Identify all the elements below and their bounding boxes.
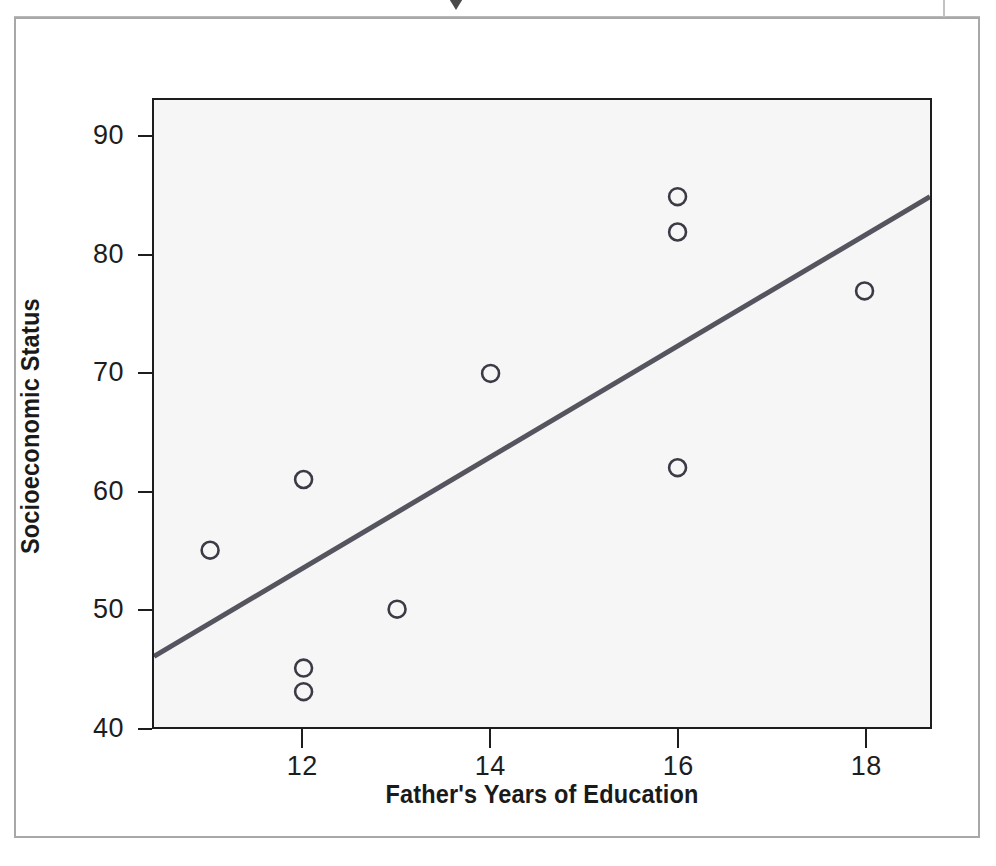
data-point (669, 224, 686, 241)
y-tick-mark (138, 491, 152, 493)
x-tick-mark (301, 729, 303, 748)
y-tick-label: 60 (32, 478, 124, 505)
y-tick-label: 70 (32, 359, 124, 386)
x-tick-label: 16 (628, 753, 728, 780)
y-tick-mark (138, 135, 152, 137)
x-tick-mark (865, 729, 867, 748)
data-point (295, 660, 312, 677)
scatter-chart: 405060708090 12141618 Socioeconomic Stat… (0, 0, 996, 866)
x-axis-title: Father's Years of Education (175, 780, 908, 809)
data-point (482, 365, 499, 382)
y-tick-mark (138, 372, 152, 374)
x-tick-mark (489, 729, 491, 748)
data-point (669, 188, 686, 205)
data-point (295, 683, 312, 700)
figure-page: 405060708090 12141618 Socioeconomic Stat… (0, 0, 996, 866)
y-tick-mark (138, 609, 152, 611)
data-point (389, 601, 406, 618)
y-axis-title: Socioeconomic Status (16, 219, 45, 633)
data-point (856, 282, 873, 299)
y-tick-mark (138, 728, 152, 730)
x-tick-label: 14 (440, 753, 540, 780)
y-tick-label: 80 (32, 241, 124, 268)
y-tick-label: 40 (32, 715, 124, 742)
x-tick-label: 18 (816, 753, 916, 780)
data-point (202, 542, 219, 559)
y-tick-label: 50 (32, 596, 124, 623)
data-point (295, 471, 312, 488)
x-tick-mark (677, 729, 679, 748)
y-tick-mark (138, 254, 152, 256)
data-point (669, 459, 686, 476)
y-tick-label: 90 (32, 122, 124, 149)
plot-canvas (154, 100, 930, 727)
regression-line (154, 197, 930, 657)
plot-area (152, 98, 932, 729)
x-tick-label: 12 (252, 753, 352, 780)
